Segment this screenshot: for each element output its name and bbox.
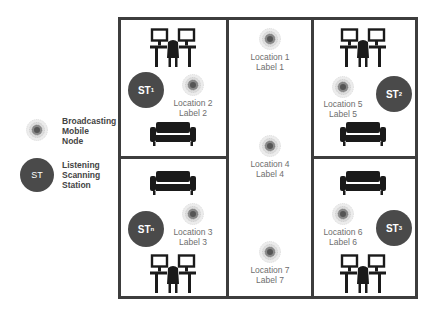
broadcasting-node-icon[interactable] [259,135,281,157]
location-name: Location 7 [240,265,300,275]
sofa-icon [340,171,386,195]
location-2-label: Location 2 Label 2 [163,98,223,118]
location-label: Label 3 [163,237,223,247]
wall-left-divider [118,156,228,159]
listening-station-icon: ST [20,158,54,192]
wall-top [118,17,418,20]
location-3-label: Location 3 Label 3 [163,227,223,247]
workstation-icon [340,254,386,294]
location-label: Label 6 [313,237,373,247]
location-label: Label 1 [240,62,300,72]
legend-broadcasting-label: Broadcasting Mobile Node [62,116,116,146]
location-name: Location 2 [163,98,223,108]
station-label: ST [386,223,399,234]
location-6-label: Location 6 Label 6 [313,227,373,247]
location-label: Label 4 [240,169,300,179]
workstation-icon [150,254,196,294]
location-name: Location 6 [313,227,373,237]
workstation-icon [150,28,196,68]
legend-st-text: ST [31,170,43,180]
location-1-label: Location 1 Label 1 [240,52,300,72]
station-st3[interactable]: ST3 [376,210,412,246]
location-name: Location 5 [313,99,373,109]
broadcasting-node-icon[interactable] [259,241,281,263]
sofa-icon [150,171,196,195]
legend-line: Station [62,180,100,190]
station-stn[interactable]: STn [128,211,164,247]
wall-bottom [118,296,418,299]
location-name: Location 4 [240,159,300,169]
station-label: ST [138,85,151,96]
location-label: Label 2 [163,108,223,118]
broadcasting-node-icon[interactable] [182,203,204,225]
sofa-icon [150,122,196,146]
broadcasting-node-icon [26,119,48,141]
station-st1[interactable]: ST1 [128,72,164,108]
location-7-label: Location 7 Label 7 [240,265,300,285]
legend-listening-label: Listening Scanning Station [62,160,100,190]
station-label: ST [386,89,399,100]
location-label: Label 5 [313,109,373,119]
location-5-label: Location 5 Label 5 [313,99,373,119]
workstation-icon [340,28,386,68]
location-label: Label 7 [240,275,300,285]
legend-line: Broadcasting [62,116,116,126]
location-name: Location 1 [240,52,300,62]
wall-right-divider [311,156,418,159]
legend-line: Listening [62,160,100,170]
broadcasting-node-icon[interactable] [332,203,354,225]
station-st2[interactable]: ST2 [376,76,412,112]
station-label: ST [138,224,151,235]
location-name: Location 3 [163,227,223,237]
broadcasting-node-icon[interactable] [182,74,204,96]
legend-line: Mobile [62,126,116,136]
legend-line: Scanning [62,170,100,180]
location-4-label: Location 4 Label 4 [240,159,300,179]
legend-line: Node [62,136,116,146]
sofa-icon [340,122,386,146]
broadcasting-node-icon[interactable] [332,76,354,98]
broadcasting-node-icon[interactable] [259,28,281,50]
